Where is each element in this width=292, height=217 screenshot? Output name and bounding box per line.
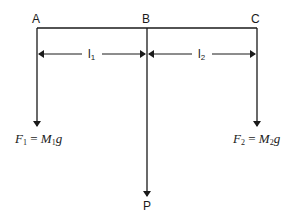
f1-m: M bbox=[41, 131, 52, 146]
f1-eq: = bbox=[30, 131, 37, 146]
f2-f: F bbox=[233, 131, 241, 146]
f2-fsub: 2 bbox=[241, 138, 245, 147]
f1-f: F bbox=[15, 131, 23, 146]
length-label-l1: l1 bbox=[88, 48, 95, 64]
length-label-l2: l2 bbox=[198, 48, 205, 64]
f2-eq: = bbox=[248, 131, 255, 146]
point-label-p: P bbox=[143, 200, 151, 212]
f1-g: g bbox=[56, 131, 63, 146]
l1-sub: 1 bbox=[91, 53, 95, 62]
f2-g: g bbox=[274, 131, 281, 146]
point-label-b: B bbox=[142, 13, 150, 25]
force-label-f2: F2 = M2g bbox=[233, 133, 280, 149]
force-label-f1: F1 = M1g bbox=[15, 133, 62, 149]
f2-m: M bbox=[259, 131, 270, 146]
beam-drawing bbox=[0, 0, 292, 217]
l2-sub: 2 bbox=[201, 53, 205, 62]
beam-diagram: A B C P l1 l2 F1 = M1g F2 = M2g bbox=[0, 0, 292, 217]
point-label-a: A bbox=[32, 13, 40, 25]
f1-fsub: 1 bbox=[23, 138, 27, 147]
point-label-c: C bbox=[251, 13, 260, 25]
